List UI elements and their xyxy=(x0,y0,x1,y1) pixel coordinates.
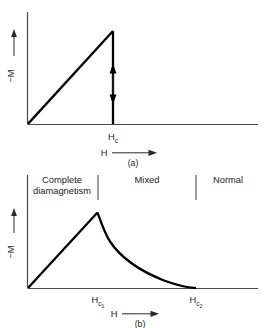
panel-b-region-label-line1: Complete xyxy=(42,175,82,185)
panel-a-x-axis-label: H xyxy=(101,148,108,158)
panel-a-curve-rise xyxy=(28,31,113,124)
panel-b-region-label-line2: diamagnetism xyxy=(33,186,91,196)
panel-a-tick-sub: c xyxy=(115,137,119,144)
panel-b-y-axis-arrow-icon xyxy=(11,208,17,233)
panel-a-transition-arrow-icon xyxy=(110,64,117,105)
panel-b-tick-label-hc2: Hc2 xyxy=(190,295,203,309)
panel-b-tick1-sub2: 1 xyxy=(102,303,105,309)
panel-b-y-axis-label: −M xyxy=(6,245,16,258)
panel-b-x-axis-label-group: H xyxy=(111,309,159,319)
panel-b-region-label-mixed: Mixed xyxy=(135,175,160,185)
panel-b-tick1-base: H xyxy=(92,295,99,305)
panel-a-tick-base: H xyxy=(108,132,115,142)
panel-b-tick-label-hc1: Hc1 xyxy=(92,295,105,309)
panel-b-tick2-base: H xyxy=(190,295,197,305)
panel-b: Complete diamagnetism Mixed Normal −M Hc… xyxy=(6,175,258,328)
panel-a-y-axis-label: −M xyxy=(6,69,16,82)
panel-b-x-axis-label: H xyxy=(111,309,118,319)
figure-canvas: −M Hc H (a) xyxy=(0,0,271,328)
magnetization-figure: −M Hc H (a) xyxy=(0,0,271,328)
panel-b-tick2-sub2: 2 xyxy=(200,303,203,309)
svg-text:Hc: Hc xyxy=(108,132,119,144)
panel-a-y-axis-arrow-icon xyxy=(11,29,17,56)
panel-b-region-label-normal: Normal xyxy=(213,175,243,185)
panel-b-curve-decay xyxy=(98,213,197,289)
panel-a-x-axis-label-group: H xyxy=(101,148,157,158)
svg-text:Hc1: Hc1 xyxy=(92,295,105,309)
panel-a-caption: (a) xyxy=(128,158,139,168)
svg-text:Hc2: Hc2 xyxy=(190,295,203,309)
panel-b-region-label-complete-diamagnetism: Complete diamagnetism xyxy=(33,175,91,196)
panel-a-tick-label-hc: Hc xyxy=(108,132,119,144)
panel-b-caption: (b) xyxy=(135,319,146,328)
panel-b-curve-rise xyxy=(28,213,97,288)
panel-a: −M Hc H (a) xyxy=(6,12,258,168)
